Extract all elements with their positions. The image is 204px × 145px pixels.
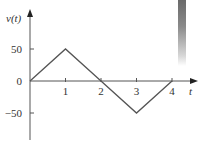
x-axis-arrow-icon bbox=[190, 78, 198, 84]
chart: v(t) t 1234500−50 bbox=[0, 0, 204, 145]
y-tick-label: −50 bbox=[5, 107, 23, 119]
x-tick-label: 2 bbox=[98, 85, 104, 97]
x-tick-label: 1 bbox=[63, 85, 69, 97]
y-axis-arrow-icon bbox=[27, 9, 33, 17]
y-axis-label: v(t) bbox=[6, 12, 22, 25]
x-tick-label: 3 bbox=[134, 85, 140, 97]
x-tick-label: 4 bbox=[169, 85, 175, 97]
x-axis-label: t bbox=[189, 85, 193, 97]
y-tick-label: 50 bbox=[11, 43, 23, 55]
y-tick-label: 0 bbox=[17, 75, 23, 87]
